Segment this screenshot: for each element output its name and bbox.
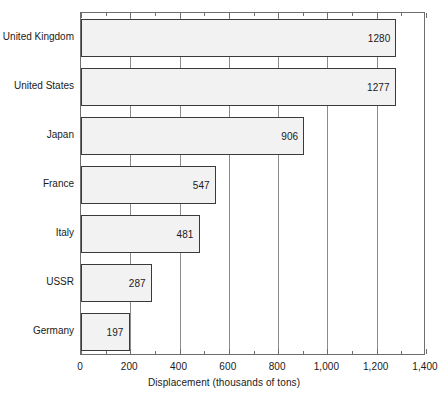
minor-tick-bottom <box>254 351 255 354</box>
bar-row: 1277 <box>81 68 424 106</box>
x-tick-label: 0 <box>77 361 83 372</box>
major-tick-top <box>229 13 230 18</box>
bar[interactable] <box>81 117 304 155</box>
x-tick-label: 1,000 <box>314 361 340 372</box>
x-tick-label: 200 <box>121 361 138 372</box>
minor-tick-top <box>352 13 353 16</box>
major-tick-bottom <box>426 349 427 354</box>
bar-chart: United KingdomUnited StatesJapanFranceIt… <box>0 0 448 401</box>
bar-row: 481 <box>81 215 424 253</box>
x-tick-label: 600 <box>219 361 236 372</box>
bar-row: 547 <box>81 166 424 204</box>
minor-tick-top <box>155 13 156 16</box>
x-tick-label: 1,400 <box>412 361 438 372</box>
bar[interactable] <box>81 19 396 57</box>
minor-tick-bottom <box>303 351 304 354</box>
category-label: United Kingdom <box>0 31 74 42</box>
x-tick-label: 400 <box>170 361 187 372</box>
bar-value-label: 1277 <box>364 81 390 92</box>
bar-row: 906 <box>81 117 424 155</box>
bar-value-label: 197 <box>98 326 124 337</box>
major-tick-top <box>377 13 378 18</box>
minor-tick-top <box>204 13 205 16</box>
bar-value-label: 287 <box>120 277 146 288</box>
category-label: Germany <box>0 325 74 336</box>
bar-value-label: 906 <box>272 130 298 141</box>
bar[interactable] <box>81 68 396 106</box>
category-label: Italy <box>0 227 74 238</box>
bar-value-label: 547 <box>184 179 210 190</box>
minor-tick-bottom <box>155 351 156 354</box>
minor-tick-bottom <box>204 351 205 354</box>
category-label: United States <box>0 80 74 91</box>
bar-row: 197 <box>81 313 424 351</box>
minor-tick-top <box>106 13 107 16</box>
plot-area: 12801277906547481287197 <box>80 12 425 355</box>
major-tick-top <box>180 13 181 18</box>
minor-tick-top <box>254 13 255 16</box>
category-label: USSR <box>0 276 74 287</box>
major-tick-top <box>327 13 328 18</box>
major-tick-top <box>426 13 427 18</box>
bar-row: 287 <box>81 264 424 302</box>
bar-value-label: 1280 <box>364 32 390 43</box>
major-tick-top <box>130 13 131 18</box>
bar-row: 1280 <box>81 19 424 57</box>
minor-tick-top <box>303 13 304 16</box>
minor-tick-bottom <box>352 351 353 354</box>
minor-tick-top <box>401 13 402 16</box>
category-label: Japan <box>0 129 74 140</box>
x-tick-label: 800 <box>269 361 286 372</box>
bar-value-label: 481 <box>168 228 194 239</box>
x-tick-label: 1,200 <box>363 361 389 372</box>
x-axis-title: Displacement (thousands of tons) <box>0 377 448 388</box>
major-tick-top <box>81 13 82 18</box>
category-label: France <box>0 178 74 189</box>
minor-tick-bottom <box>106 351 107 354</box>
major-tick-top <box>278 13 279 18</box>
minor-tick-bottom <box>401 351 402 354</box>
